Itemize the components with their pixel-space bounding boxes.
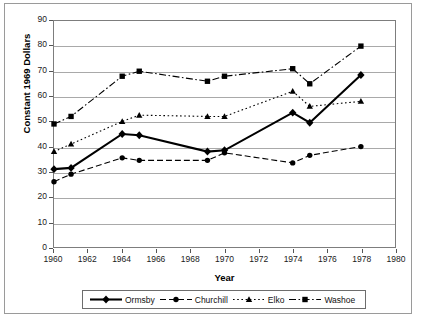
legend-label: Churchill xyxy=(195,295,228,305)
x-tick-mark xyxy=(293,249,294,253)
x-tick-label: 1972 xyxy=(249,254,268,264)
y-tick-label: 20 xyxy=(20,191,47,201)
x-tick-label: 1962 xyxy=(78,254,97,264)
data-point-marker xyxy=(137,158,142,163)
data-point-marker xyxy=(68,172,73,177)
x-tick-label: 1976 xyxy=(318,254,337,264)
data-point-marker xyxy=(173,297,178,302)
x-tick-mark xyxy=(362,249,363,253)
x-tick-mark xyxy=(327,249,328,253)
y-tick-label: 50 xyxy=(20,115,47,125)
data-point-marker xyxy=(136,112,142,118)
y-tick-label: 90 xyxy=(20,14,47,24)
x-tick-label: 1978 xyxy=(352,254,371,264)
legend-label: Elko xyxy=(268,295,285,305)
chart-legend: OrmsbyChurchillElkoWashoe xyxy=(82,290,366,309)
x-tick-label: 1964 xyxy=(112,254,131,264)
x-tick-mark xyxy=(53,249,54,253)
x-tick-mark xyxy=(156,249,157,253)
x-tick-mark xyxy=(122,249,123,253)
x-tick-mark xyxy=(87,249,88,253)
data-point-marker xyxy=(68,141,74,147)
data-point-marker xyxy=(119,118,125,124)
data-point-marker xyxy=(51,179,56,184)
legend-swatch-circle xyxy=(159,294,193,305)
y-tick-label: 30 xyxy=(20,166,47,176)
legend-label: Ormsby xyxy=(125,295,155,305)
legend-item-elko[interactable]: Elko xyxy=(232,294,289,305)
series-elko xyxy=(51,88,364,154)
x-axis-title: Year xyxy=(53,272,396,283)
x-tick-label: 1968 xyxy=(181,254,200,264)
series-line xyxy=(54,91,361,151)
data-point-marker xyxy=(289,109,296,117)
legend-swatch-diamond xyxy=(89,294,123,305)
y-tick-label: 70 xyxy=(20,65,47,75)
x-tick-mark xyxy=(225,249,226,253)
data-point-marker xyxy=(205,79,210,84)
data-point-marker xyxy=(358,43,363,48)
x-tick-label: 1960 xyxy=(44,254,63,264)
y-tick-label: 0 xyxy=(20,242,47,252)
legend-item-churchill[interactable]: Churchill xyxy=(159,294,232,305)
data-point-marker xyxy=(307,153,312,158)
data-point-marker xyxy=(222,150,227,155)
data-point-marker xyxy=(290,88,296,94)
data-point-marker xyxy=(290,66,295,71)
x-tick-label: 1980 xyxy=(387,254,406,264)
data-point-marker xyxy=(68,114,73,119)
chart-figure: Constant 1969 Dollars 010203040506070809… xyxy=(0,0,424,322)
x-tick-mark xyxy=(396,249,397,253)
y-axis-title: Constant 1969 Dollars xyxy=(21,14,32,154)
legend-swatch-triangle xyxy=(232,294,266,305)
data-point-marker xyxy=(120,155,125,160)
y-tick-label: 60 xyxy=(20,90,47,100)
x-tick-mark xyxy=(259,249,260,253)
y-tick-label: 10 xyxy=(20,217,47,227)
x-tick-label: 1974 xyxy=(284,254,303,264)
series-layer xyxy=(54,21,395,247)
data-point-marker xyxy=(137,69,142,74)
data-point-marker xyxy=(205,158,210,163)
x-tick-mark xyxy=(190,249,191,253)
y-tick-label: 40 xyxy=(20,141,47,151)
series-line xyxy=(54,46,361,124)
data-point-marker xyxy=(204,148,211,156)
data-point-marker xyxy=(120,74,125,79)
legend-item-ormsby[interactable]: Ormsby xyxy=(89,294,159,305)
data-point-marker xyxy=(358,144,363,149)
data-point-marker xyxy=(102,296,109,304)
data-point-marker xyxy=(303,297,308,302)
legend-label: Washoe xyxy=(324,295,355,305)
data-point-marker xyxy=(222,74,227,79)
x-tick-label: 1966 xyxy=(146,254,165,264)
legend-item-washoe[interactable]: Washoe xyxy=(288,294,359,305)
x-tick-label: 1970 xyxy=(215,254,234,264)
plot-area xyxy=(53,20,396,248)
data-point-marker xyxy=(290,160,295,165)
data-point-marker xyxy=(136,131,143,139)
data-point-marker xyxy=(51,121,56,126)
y-tick-label: 80 xyxy=(20,39,47,49)
data-point-marker xyxy=(307,81,312,86)
legend-swatch-square xyxy=(288,294,322,305)
data-point-marker xyxy=(358,98,364,104)
